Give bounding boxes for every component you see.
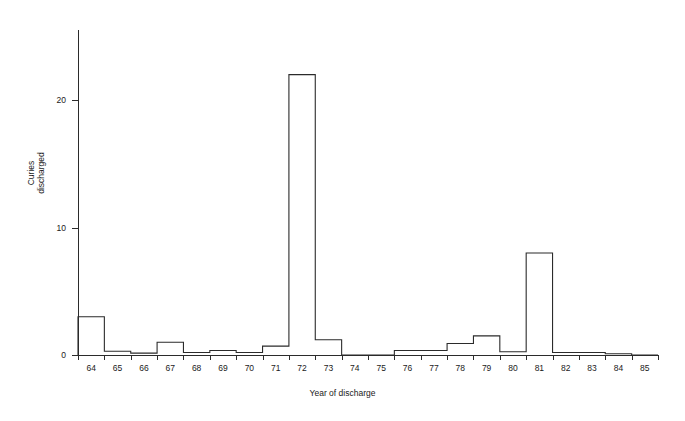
x-tick-edge-10 xyxy=(342,355,343,360)
y-tick-label-20: 20 xyxy=(26,96,66,105)
x-tick-edge-13 xyxy=(421,355,422,360)
x-tick-label-80: 80 xyxy=(499,364,527,373)
x-tick-edge-18 xyxy=(553,355,554,360)
x-axis-title: Year of discharge xyxy=(0,388,685,398)
x-tick-label-82: 82 xyxy=(552,364,580,373)
x-tick-label-78: 78 xyxy=(446,364,474,373)
x-tick-edge-0 xyxy=(78,355,79,360)
x-tick-label-72: 72 xyxy=(288,364,316,373)
x-tick-label-71: 71 xyxy=(262,364,290,373)
x-tick-edge-6 xyxy=(236,355,237,360)
x-tick-label-81: 81 xyxy=(525,364,553,373)
x-tick-edge-7 xyxy=(263,355,264,360)
x-tick-edge-20 xyxy=(605,355,606,360)
x-tick-label-70: 70 xyxy=(235,364,263,373)
y-axis-title-line-2: discharged xyxy=(36,128,46,218)
histogram-outline-path xyxy=(78,75,658,355)
x-tick-label-77: 77 xyxy=(420,364,448,373)
x-tick-edge-19 xyxy=(579,355,580,360)
x-tick-label-85: 85 xyxy=(631,364,659,373)
x-tick-edge-16 xyxy=(500,355,501,360)
y-axis-line xyxy=(78,30,79,356)
x-tick-edge-5 xyxy=(210,355,211,360)
x-tick-label-64: 64 xyxy=(77,364,105,373)
x-tick-edge-2 xyxy=(131,355,132,360)
x-tick-edge-15 xyxy=(473,355,474,360)
x-tick-edge-17 xyxy=(526,355,527,360)
x-tick-edge-1 xyxy=(104,355,105,360)
x-tick-edge-21 xyxy=(632,355,633,360)
y-tick-label-0: 0 xyxy=(26,351,66,360)
x-tick-label-84: 84 xyxy=(604,364,632,373)
x-tick-edge-3 xyxy=(157,355,158,360)
x-tick-label-79: 79 xyxy=(473,364,501,373)
x-tick-edge-14 xyxy=(447,355,448,360)
y-tick-label-10: 10 xyxy=(26,224,66,233)
x-tick-label-65: 65 xyxy=(104,364,132,373)
histogram-figure: 01020 6465666768697071727374757677787980… xyxy=(0,0,685,421)
x-tick-label-67: 67 xyxy=(156,364,184,373)
x-tick-label-66: 66 xyxy=(130,364,158,373)
x-tick-edge-9 xyxy=(315,355,316,360)
x-tick-label-69: 69 xyxy=(209,364,237,373)
x-tick-label-73: 73 xyxy=(314,364,342,373)
x-tick-edge-12 xyxy=(394,355,395,360)
x-tick-edge-8 xyxy=(289,355,290,360)
y-tick-10 xyxy=(72,228,79,229)
x-tick-label-75: 75 xyxy=(367,364,395,373)
x-tick-label-74: 74 xyxy=(341,364,369,373)
x-tick-edge-22 xyxy=(658,355,659,360)
x-tick-label-76: 76 xyxy=(394,364,422,373)
x-tick-edge-11 xyxy=(368,355,369,360)
y-axis-title-line-1: Curies xyxy=(26,128,36,218)
x-tick-label-68: 68 xyxy=(183,364,211,373)
x-tick-edge-4 xyxy=(183,355,184,360)
y-axis-title: Curies discharged xyxy=(26,128,46,218)
x-tick-label-83: 83 xyxy=(578,364,606,373)
y-tick-20 xyxy=(72,100,79,101)
